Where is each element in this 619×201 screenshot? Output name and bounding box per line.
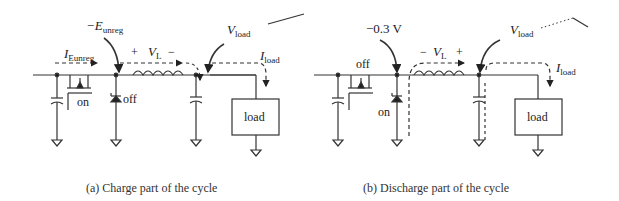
svg-text:(b) Discharge part of the cyc: (b) Discharge part of the cycle [363,181,509,195]
panel-a-labels: −Eunreg IEunreg + VL − Vload Iload on of… [63,18,280,195]
svg-text:Vload: Vload [227,22,251,39]
svg-text:on: on [378,105,390,119]
output-capacitor [190,73,202,146]
svg-text:−: − [168,45,175,59]
svg-text:VL: VL [433,44,446,61]
svg-text:off: off [123,92,137,106]
mosfet-switch-icon [348,75,373,110]
panel-b [314,18,588,156]
svg-text:on: on [77,95,89,109]
svg-text:load: load [527,110,548,124]
diode-icon [111,73,121,146]
panel-a [33,14,304,156]
svg-text:Iload: Iload [259,48,280,65]
svg-text:−0.3 V: −0.3 V [366,21,403,36]
svg-text:VL: VL [148,44,161,61]
svg-text:−Eunreg: −Eunreg [86,18,124,35]
svg-text:IEunreg: IEunreg [63,46,95,63]
svg-text:load: load [244,110,265,124]
svg-text:(a) Charge part of the cycle: (a) Charge part of the cycle [86,181,217,195]
input-capacitor [332,73,344,146]
svg-text:−: − [420,45,427,59]
svg-text:off: off [356,57,370,71]
svg-text:Vload: Vload [510,22,534,39]
svg-text:+: + [131,45,138,59]
input-capacitor [51,73,63,146]
output-capacitor [473,73,485,146]
svg-text:Iload: Iload [555,60,576,77]
svg-text:+: + [456,45,463,59]
diode-icon [392,73,402,146]
circuit-diagram: −Eunreg IEunreg + VL − Vload Iload on of… [0,0,619,201]
